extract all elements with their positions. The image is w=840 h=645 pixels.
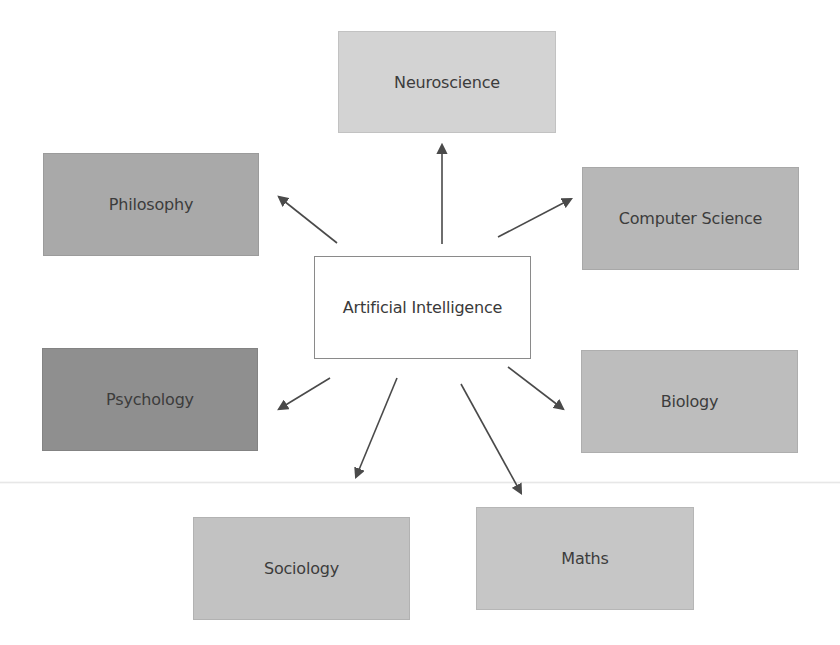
node-psychology: Psychology — [42, 348, 258, 451]
node-label: Computer Science — [619, 209, 762, 228]
arrow-to-philosophy — [279, 197, 337, 243]
node-maths: Maths — [476, 507, 694, 610]
node-artificial-intelligence: Artificial Intelligence — [314, 256, 531, 359]
arrow-to-maths — [461, 384, 521, 493]
node-label: Sociology — [264, 559, 339, 578]
arrow-to-sociology — [356, 378, 397, 477]
node-label: Biology — [661, 392, 719, 411]
node-label: Artificial Intelligence — [343, 298, 502, 317]
node-biology: Biology — [581, 350, 798, 453]
node-label: Maths — [561, 549, 608, 568]
arrow-to-computer-science — [498, 199, 571, 237]
arrow-to-biology — [508, 367, 563, 409]
node-neuroscience: Neuroscience — [338, 31, 556, 133]
arrow-to-psychology — [279, 378, 330, 409]
node-sociology: Sociology — [193, 517, 410, 620]
node-label: Neuroscience — [394, 73, 500, 92]
node-label: Philosophy — [109, 195, 193, 214]
scan-artifact-line — [0, 481, 840, 484]
node-computer-science: Computer Science — [582, 167, 799, 270]
node-philosophy: Philosophy — [43, 153, 259, 256]
node-label: Psychology — [106, 390, 194, 409]
